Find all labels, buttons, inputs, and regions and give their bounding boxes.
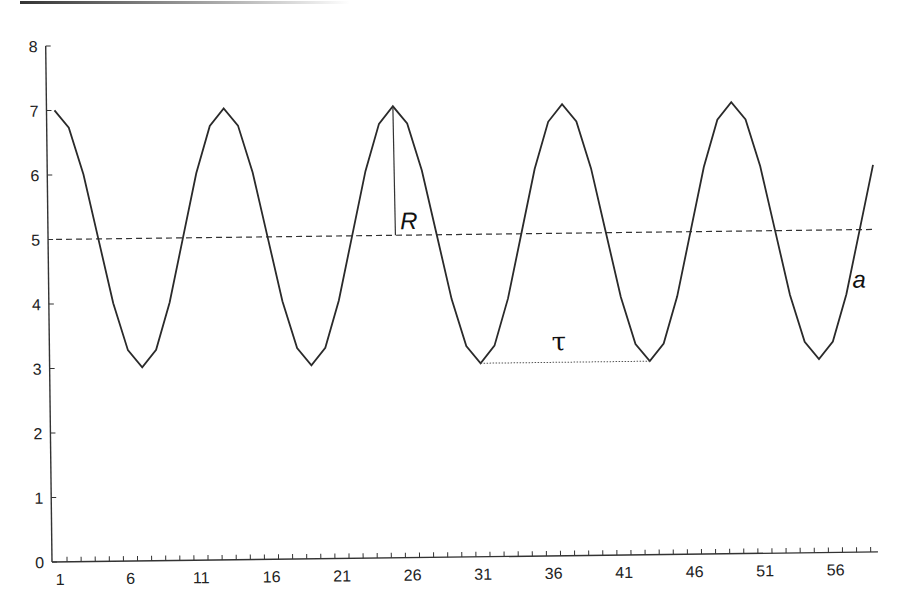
x-tick-label: 36 [545, 565, 563, 582]
period-label: τ [552, 326, 567, 356]
y-tick-label: 3 [33, 361, 42, 378]
series-a [54, 100, 875, 368]
x-tick-label: 6 [126, 570, 135, 587]
x-tick-label: 56 [827, 561, 845, 578]
amplitude-line [393, 106, 396, 235]
amplitude-label: R [400, 207, 418, 234]
series-label-a: a [852, 266, 866, 293]
axes: 0123456781611162126313641465156 [29, 28, 879, 588]
x-tick-label: 21 [333, 567, 351, 584]
x-tick-label: 26 [404, 566, 422, 583]
x-tick-label: 31 [474, 566, 492, 583]
top-rule [20, 1, 350, 4]
series-a-line [54, 100, 875, 368]
y-tick-label: 6 [30, 167, 39, 184]
x-tick-label: 11 [193, 569, 210, 586]
y-tick-label: 5 [31, 232, 40, 249]
y-tick-label: 1 [34, 490, 43, 507]
x-tick-label: 1 [56, 571, 65, 588]
y-tick-label: 7 [29, 103, 38, 120]
y-tick-label: 4 [32, 296, 41, 313]
mean-dashed-line [56, 229, 874, 239]
x-axis [52, 552, 878, 562]
x-tick-label: 51 [756, 562, 774, 579]
y-tick-label: 0 [35, 554, 44, 571]
x-tick-label: 46 [686, 563, 704, 580]
plot-area: 0123456781611162126313641465156 Rτa [29, 28, 879, 588]
line-chart: 0123456781611162126313641465156 Rτa [0, 0, 901, 610]
period-line [481, 361, 650, 363]
y-tick-label: 2 [33, 425, 42, 442]
mean-line [56, 229, 874, 239]
x-tick-label: 41 [615, 564, 633, 581]
y-tick-label: 8 [29, 38, 38, 55]
x-tick-label: 16 [263, 568, 281, 585]
